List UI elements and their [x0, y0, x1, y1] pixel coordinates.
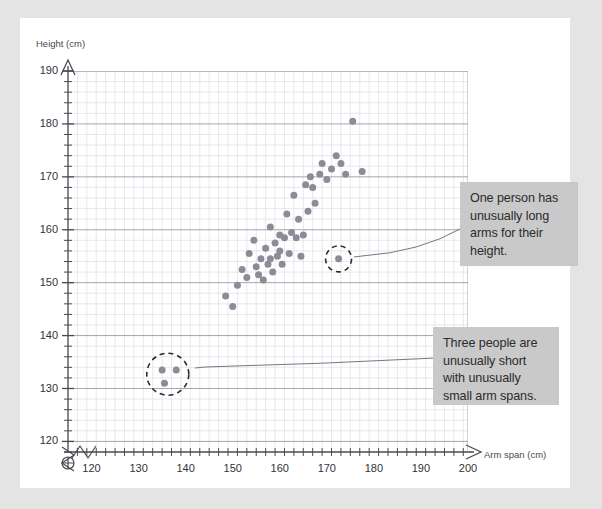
data-point: [267, 255, 274, 262]
data-point: [307, 173, 314, 180]
data-point: [319, 160, 326, 167]
data-point: [243, 274, 250, 281]
data-point: [260, 277, 267, 284]
x-tick-label-200: 200: [451, 462, 485, 474]
data-point: [283, 210, 290, 217]
data-point: [276, 247, 283, 254]
x-tick-label-130: 130: [122, 462, 156, 474]
data-point: [323, 176, 330, 183]
data-point: [293, 234, 300, 241]
y-tick-label-190: 190: [28, 64, 58, 76]
data-point: [342, 171, 349, 178]
data-point: [309, 184, 316, 191]
data-point: [269, 269, 276, 276]
data-point: [290, 192, 297, 199]
data-point: [300, 232, 307, 239]
data-point: [246, 250, 253, 257]
data-point: [250, 237, 257, 244]
origin-crossed-circle-icon: [62, 457, 74, 469]
y-tick-label-160: 160: [28, 223, 58, 235]
y-tick-label-150: 150: [28, 276, 58, 288]
data-point: [262, 245, 269, 252]
x-tick-label-160: 160: [263, 462, 297, 474]
y-tick-label-170: 170: [28, 170, 58, 182]
data-point: [173, 366, 180, 373]
data-point: [229, 303, 236, 310]
data-point: [305, 208, 312, 215]
x-tick-label-190: 190: [404, 462, 438, 474]
y-tick-label-120: 120: [28, 434, 58, 446]
data-point: [328, 165, 335, 172]
x-tick-label-150: 150: [216, 462, 250, 474]
data-point: [302, 181, 309, 188]
data-point: [255, 271, 262, 278]
data-point: [267, 224, 274, 231]
data-point: [272, 239, 279, 246]
data-point: [333, 152, 340, 159]
y-axis-title: Height (cm): [36, 38, 85, 49]
x-axis-title: Arm span (cm): [484, 449, 546, 460]
data-point: [257, 255, 264, 262]
y-tick-label-130: 130: [28, 382, 58, 394]
data-point: [316, 171, 323, 178]
data-point: [297, 253, 304, 260]
page-root: Height (cm) Arm span (cm) 12013014015016…: [0, 0, 602, 509]
axis-tick-marks: [62, 71, 463, 456]
data-point: [222, 292, 229, 299]
callout-short-people: Three people are unusually short with un…: [433, 327, 559, 405]
data-point: [279, 261, 286, 268]
data-point: [349, 118, 356, 125]
data-point: [359, 168, 366, 175]
data-point: [312, 200, 319, 207]
callout-long-arms: One person has unusually long arms for t…: [460, 182, 578, 266]
data-point: [161, 380, 168, 387]
y-tick-label-180: 180: [28, 117, 58, 129]
data-point: [337, 160, 344, 167]
data-point: [234, 282, 241, 289]
data-point: [286, 250, 293, 257]
data-point: [288, 229, 295, 236]
y-tick-label-140: 140: [28, 329, 58, 341]
data-point: [295, 216, 302, 223]
callout-leader-lines: [195, 228, 462, 368]
data-point: [159, 366, 166, 373]
x-tick-label-180: 180: [357, 462, 391, 474]
x-tick-label-120: 120: [75, 462, 109, 474]
data-point: [335, 255, 342, 262]
x-tick-label-170: 170: [310, 462, 344, 474]
data-point: [253, 263, 260, 270]
data-point: [239, 266, 246, 273]
x-tick-label-140: 140: [169, 462, 203, 474]
data-point: [281, 234, 288, 241]
